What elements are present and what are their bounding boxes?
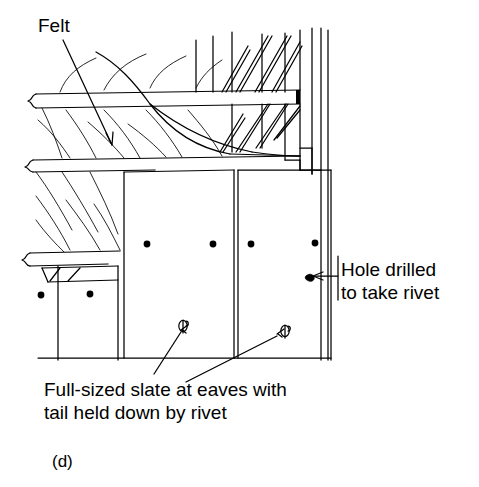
full-sized-slate-label: Full-sized slate at eaves with tail held…	[44, 378, 287, 424]
rivet	[277, 325, 290, 338]
felt-grain-texture	[36, 54, 222, 252]
masonry-wall	[196, 28, 328, 360]
felt-label: Felt	[38, 14, 70, 37]
drilled-hole	[305, 274, 314, 281]
nail-hole	[87, 291, 94, 298]
nail-hole	[144, 241, 151, 248]
eaves-detail-figure: Felt Hole drilled to take rivet Full-siz…	[0, 0, 479, 487]
wall-slate-junction	[285, 90, 321, 174]
nail-hole	[248, 241, 255, 248]
nail-hole	[38, 292, 45, 299]
slate-leader-line-1	[154, 332, 181, 374]
drawing-strokes	[22, 28, 338, 382]
hole-drilled-label: Hole drilled to take rivet	[341, 258, 439, 304]
nail-hole	[210, 241, 217, 248]
slate-leader-line-2	[186, 336, 277, 382]
figure-letter: (d)	[52, 452, 73, 473]
rivet	[179, 320, 188, 333]
nail-hole	[312, 240, 319, 247]
